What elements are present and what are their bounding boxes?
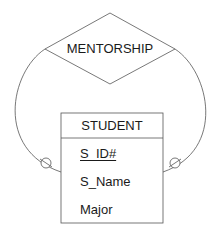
left-optional-circle-icon [40, 158, 52, 168]
attribute: Major [80, 202, 113, 217]
left-connector-line [15, 49, 61, 172]
attribute-primary-key: S_ID# [80, 146, 116, 161]
entity-title: STUDENT [61, 118, 163, 133]
relationship-label: MENTORSHIP [45, 41, 175, 56]
right-connector-line [163, 49, 206, 172]
right-optional-circle-icon [169, 158, 181, 168]
attribute: S_Name [80, 174, 131, 189]
